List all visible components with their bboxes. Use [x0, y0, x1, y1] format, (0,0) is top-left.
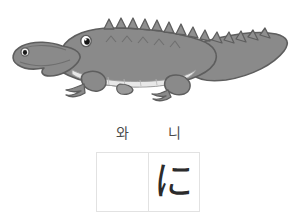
reading-syllable-1: 와 — [96, 121, 148, 145]
reading-syllable-2-text: 니 — [168, 126, 181, 140]
reading-row: 와 니 — [96, 121, 200, 145]
answer-grid: に — [96, 152, 200, 212]
crocodile-graphic — [13, 18, 287, 101]
answer-cell-2-glyph: に — [153, 161, 195, 201]
reading-syllable-1-text: 와 — [116, 126, 129, 140]
crocodile-rear-foot — [152, 90, 171, 101]
crocodile-svg — [0, 10, 296, 105]
flashcard-root: 와 니 に — [0, 0, 296, 221]
crocodile-illustration — [0, 10, 296, 105]
crocodile-nostril-pupil — [23, 50, 27, 55]
answer-cell-2[interactable]: に — [148, 153, 199, 211]
crocodile-eye-highlight — [85, 39, 87, 41]
answer-cell-1[interactable] — [97, 153, 148, 211]
crocodile-front-foot — [66, 84, 85, 97]
reading-syllable-2: 니 — [148, 121, 200, 145]
